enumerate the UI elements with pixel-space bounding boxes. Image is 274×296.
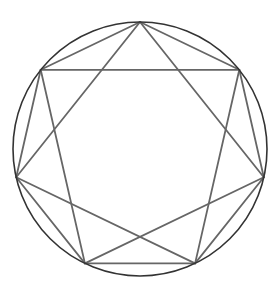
circumscribed-circle bbox=[13, 22, 267, 276]
star-chord-group bbox=[16, 22, 264, 263]
polygon-edge-group bbox=[16, 22, 264, 263]
figure-canvas bbox=[0, 0, 274, 296]
polygon-edge-6-0 bbox=[41, 22, 140, 70]
geometry-diagram bbox=[0, 0, 274, 296]
polygon-edge-0-1 bbox=[140, 22, 239, 70]
star-chord-2-4 bbox=[85, 177, 264, 263]
circumscribed-circle-group bbox=[13, 22, 267, 276]
star-chord-3-5 bbox=[16, 177, 195, 263]
